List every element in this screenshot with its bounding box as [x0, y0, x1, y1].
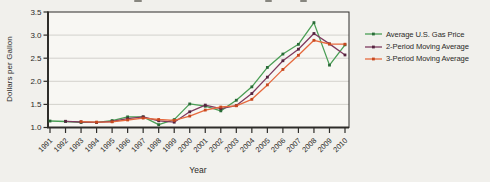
svg-text:1995: 1995	[98, 136, 116, 154]
svg-text:2.5: 2.5	[30, 54, 42, 63]
svg-text:2004: 2004	[238, 136, 256, 154]
svg-text:2006: 2006	[269, 136, 287, 154]
svg-text:2002: 2002	[207, 136, 225, 154]
chart-figure: 1.01.52.02.53.03.51991199219931994199519…	[0, 0, 490, 182]
svg-text:1997: 1997	[129, 136, 147, 154]
svg-text:3.5: 3.5	[30, 8, 42, 17]
svg-text:1.0: 1.0	[30, 123, 42, 132]
svg-text:1999: 1999	[160, 136, 178, 154]
legend-swatch-gas-price-icon	[365, 30, 382, 38]
svg-text:2007: 2007	[285, 136, 303, 154]
svg-text:2003: 2003	[223, 136, 241, 154]
svg-text:3.0: 3.0	[30, 31, 42, 40]
legend-label: 2-Period Moving Average	[386, 42, 469, 51]
legend-item-gas-price: Average U.S. Gas Price	[365, 28, 469, 40]
legend-label: Average U.S. Gas Price	[386, 30, 464, 39]
svg-text:2000: 2000	[176, 136, 194, 154]
legend-label: 3-Period Moving Average	[386, 54, 469, 63]
svg-text:1992: 1992	[52, 136, 70, 154]
svg-text:1996: 1996	[114, 136, 132, 154]
svg-text:2010: 2010	[331, 136, 349, 154]
legend-swatch-2-period-ma-icon	[365, 43, 382, 51]
svg-text:2005: 2005	[254, 136, 272, 154]
svg-text:2.0: 2.0	[30, 77, 42, 86]
x-axis-title: Year	[189, 165, 207, 175]
legend-item-2-period-ma: 2-Period Moving Average	[365, 40, 469, 52]
legend: Average U.S. Gas Price 2-Period Moving A…	[365, 28, 469, 65]
svg-text:2001: 2001	[192, 136, 210, 154]
legend-item-3-period-ma: 3-Period Moving Average	[365, 53, 469, 65]
svg-text:2008: 2008	[300, 136, 318, 154]
svg-text:1991: 1991	[36, 136, 54, 154]
svg-text:1.5: 1.5	[30, 100, 42, 109]
svg-text:1994: 1994	[83, 136, 101, 154]
svg-text:1998: 1998	[145, 136, 163, 154]
svg-text:2009: 2009	[316, 136, 334, 154]
legend-swatch-3-period-ma-icon	[365, 55, 382, 63]
y-axis-title: Dollars per Gallon	[5, 36, 14, 102]
svg-text:1993: 1993	[67, 136, 85, 154]
